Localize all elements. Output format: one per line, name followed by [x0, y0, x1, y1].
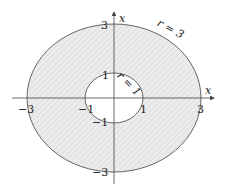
annulus-diagram: x x r = 3 r = 1 −3 −1 1 3 3 1 −1 −3 — [0, 0, 228, 194]
tick-x-pos1: 1 — [140, 103, 147, 116]
horizontal-axis-label: x — [205, 84, 212, 97]
tick-x-pos3: 3 — [197, 103, 204, 116]
tick-y-neg3: −3 — [92, 166, 108, 179]
tick-y-neg1: −1 — [92, 116, 108, 129]
tick-y-pos1: 1 — [102, 69, 109, 82]
vertical-axis-label: x — [119, 12, 126, 25]
tick-y-pos3: 3 — [101, 19, 108, 32]
tick-x-neg1: −1 — [78, 103, 94, 116]
tick-x-neg3: −3 — [18, 103, 34, 116]
